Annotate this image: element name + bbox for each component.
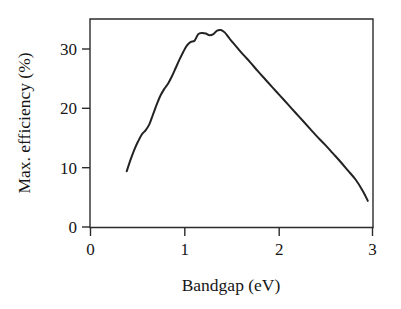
x-tick-label-2: 2: [275, 240, 284, 259]
x-axis-ticks: [91, 227, 373, 236]
chart-figure: 0 10 20 30 0 1 2 3 Bandgap (eV) Max. eff…: [0, 0, 401, 309]
x-tick-label-0: 0: [86, 240, 95, 259]
y-tick-label-30: 30: [60, 40, 77, 59]
y-axis-ticks: [82, 49, 90, 227]
efficiency-vs-bandgap-chart: 0 10 20 30 0 1 2 3 Bandgap (eV) Max. eff…: [0, 0, 401, 309]
x-tick-label-1: 1: [181, 240, 190, 259]
y-tick-label-0: 0: [69, 218, 78, 237]
y-axis-title: Max. efficiency (%): [14, 52, 34, 193]
efficiency-curve: [127, 30, 368, 201]
x-axis-title: Bandgap (eV): [182, 275, 281, 295]
y-tick-label-20: 20: [60, 99, 77, 118]
plot-frame: [90, 19, 373, 227]
x-tick-label-3: 3: [368, 240, 377, 259]
y-tick-label-10: 10: [60, 159, 77, 178]
